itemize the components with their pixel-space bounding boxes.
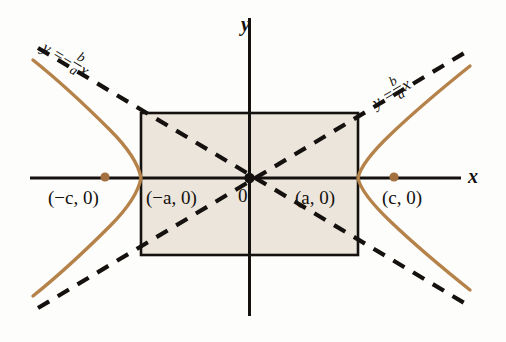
y-axis-label: y xyxy=(241,14,250,34)
left-focus-marker xyxy=(100,172,109,181)
right-focus-marker xyxy=(389,172,398,181)
right-focus-label: (c, 0) xyxy=(382,188,422,207)
origin-marker xyxy=(244,173,254,183)
left-vertex-label: (−a, 0) xyxy=(146,188,197,207)
hyperbola-figure: y x 0 (−c, 0) (−a, 0) (a, 0) (c, 0) y =−… xyxy=(0,0,506,342)
left-focus-label: (−c, 0) xyxy=(48,188,99,207)
origin-label: 0 xyxy=(238,186,248,205)
x-axis-label: x xyxy=(468,166,478,186)
right-vertex-label: (a, 0) xyxy=(295,188,335,207)
